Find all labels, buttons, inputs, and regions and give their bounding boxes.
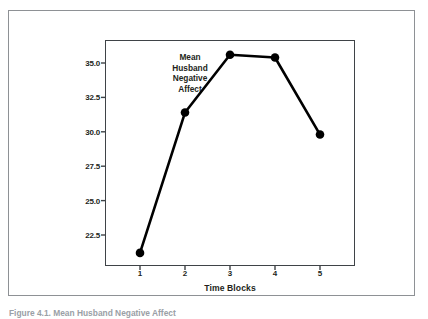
- annotation-line-1: Mean: [152, 52, 228, 63]
- plot-area-frame: [105, 40, 355, 266]
- y-axis-tick-labels: 35.0 32.5 30.0 27.5 25.0 22.5: [70, 0, 100, 319]
- y-tick-label-22-5: 22.5: [85, 231, 100, 240]
- annotation-line-2: Husband: [152, 63, 228, 74]
- x-tick-label-2: 2: [173, 269, 197, 279]
- x-tick-label-1: 1: [128, 269, 152, 279]
- y-tick-label-32-5: 32.5: [85, 93, 100, 102]
- x-tick-label-4: 4: [263, 269, 287, 279]
- annotation-line-4: Affect: [152, 84, 228, 95]
- figure-root: 35.0 32.5 30.0 27.5 25.0 22.5 Estimated …: [0, 0, 428, 319]
- y-tick-label-27-5: 27.5: [85, 162, 100, 171]
- y-tick-label-30-0: 30.0: [85, 127, 100, 136]
- x-tick-label-3: 3: [218, 269, 242, 279]
- figure-caption: Figure 4.1. Mean Husband Negative Affect: [9, 308, 409, 318]
- x-axis-title: Time Blocks: [105, 283, 355, 293]
- y-tick-label-35-0: 35.0: [85, 59, 100, 68]
- annotation-line-3: Negative: [152, 73, 228, 84]
- series-annotation-label: Mean Husband Negative Affect: [152, 52, 228, 94]
- y-tick-label-25-0: 25.0: [85, 196, 100, 205]
- x-tick-label-5: 5: [308, 269, 332, 279]
